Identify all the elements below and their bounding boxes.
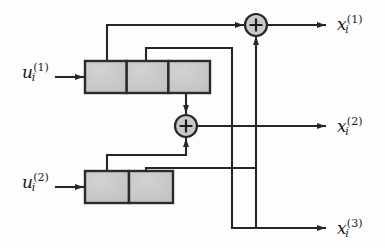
- adder-middle: [175, 115, 197, 137]
- input-2-superscript: (2): [33, 171, 49, 184]
- diagram-canvas: [0, 0, 385, 248]
- shift-register-1: [85, 61, 210, 93]
- shift-register-diagram: ui(1) ui(2) xi(1) xi(2) xi(3): [0, 0, 385, 248]
- output-label-1: xi(1): [337, 14, 362, 35]
- input-label-2: ui(2): [22, 172, 49, 193]
- wire-tap-upper-stage1-to-adder-top: [107, 25, 243, 61]
- adder-top: [245, 14, 267, 36]
- register2-cell-1: [85, 171, 129, 203]
- register1-cell-1: [85, 61, 127, 93]
- output-label-3: xi(3): [337, 218, 362, 239]
- output-2-superscript: (2): [347, 115, 363, 128]
- wire-branch-to-output3: [232, 168, 325, 228]
- input-1-superscript: (1): [33, 61, 49, 74]
- register1-cell-3: [168, 61, 210, 93]
- output-1-superscript: (1): [347, 13, 363, 26]
- output-label-2: xi(2): [337, 116, 362, 137]
- input-label-1: ui(1): [22, 62, 49, 83]
- shift-register-2: [85, 171, 173, 203]
- register1-cell-2: [127, 61, 169, 93]
- wire-tap-lower-stage1-to-adder-middle: [107, 139, 186, 171]
- register2-cell-2: [129, 171, 173, 203]
- output-3-superscript: (3): [347, 217, 363, 230]
